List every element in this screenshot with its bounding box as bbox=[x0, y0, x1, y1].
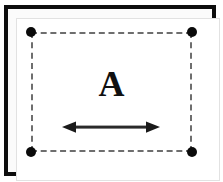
corner-dot-bottom-right bbox=[187, 147, 197, 157]
figure-root: A bbox=[0, 0, 223, 182]
corner-dot-top-left bbox=[26, 27, 36, 37]
horizontal-double-arrow bbox=[60, 117, 162, 139]
double-arrow-icon bbox=[60, 117, 162, 139]
region-label-a: A bbox=[0, 62, 223, 106]
corner-dot-top-right bbox=[187, 27, 197, 37]
corner-dot-bottom-left bbox=[26, 147, 36, 157]
